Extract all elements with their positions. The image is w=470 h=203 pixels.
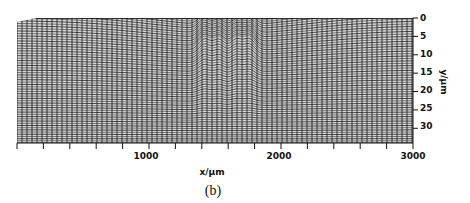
x-tick-label-1000: 1000 (133, 151, 158, 161)
y-axis: 0 5 10 15 20 25 30 y/μm (413, 13, 449, 143)
y-tick-label-0: 0 (420, 13, 426, 23)
x-tick-label-3000: 3000 (400, 151, 425, 161)
y-tick-label-15: 15 (420, 67, 433, 77)
y-axis-title: y/μm (439, 69, 449, 94)
surface-mesh-figure: 1000 2000 3000 x/μm 0 5 10 15 20 25 30 y… (0, 0, 470, 203)
y-tick-label-5: 5 (420, 31, 426, 41)
x-axis: 1000 2000 3000 x/μm (17, 143, 426, 177)
x-axis-title: x/μm (199, 167, 224, 177)
y-tick-label-25: 25 (420, 103, 433, 113)
y-tick-label-10: 10 (420, 49, 433, 59)
mesh-surface (17, 0, 413, 143)
x-tick-label-2000: 2000 (266, 151, 291, 161)
y-tick-label-30: 30 (420, 121, 433, 131)
y-tick-label-20: 20 (420, 85, 433, 95)
figure-caption: (b) (205, 183, 222, 199)
